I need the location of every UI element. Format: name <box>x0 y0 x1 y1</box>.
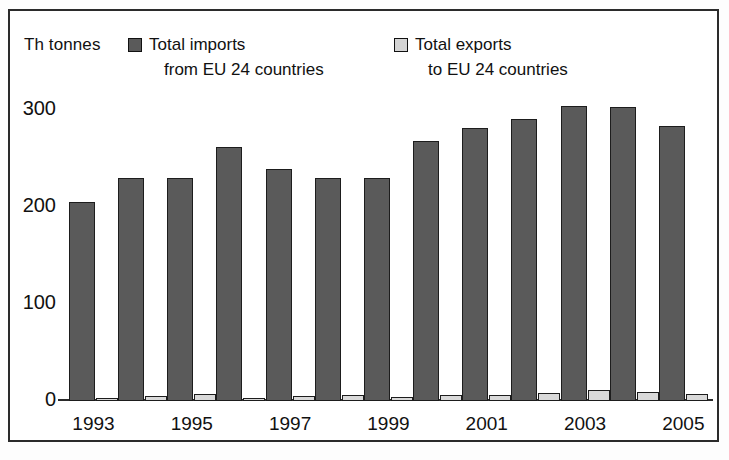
y-axis-tick-200: 200 <box>23 194 56 217</box>
bar-exports <box>489 395 511 401</box>
bar-exports <box>293 396 315 401</box>
bar-exports <box>391 397 413 401</box>
x-axis-tick-1995: 1995 <box>171 413 213 435</box>
bar-imports <box>266 169 292 402</box>
bar-imports <box>69 202 95 401</box>
x-axis-tick-2001: 2001 <box>466 413 508 435</box>
bar-group <box>117 13 166 401</box>
bar-imports <box>315 178 341 401</box>
chart-frame: Th tonnes Total imports from EU 24 count… <box>8 9 719 442</box>
bar-exports <box>637 392 659 401</box>
bar-group <box>166 13 215 401</box>
bar-exports <box>440 395 462 401</box>
bar-group <box>363 13 412 401</box>
x-axis-tick-2003: 2003 <box>564 413 606 435</box>
bar-imports <box>364 178 390 401</box>
bar-group <box>68 13 117 401</box>
bar-group <box>215 13 264 401</box>
bar-group <box>510 13 559 401</box>
y-axis: 0100200300 <box>10 11 64 440</box>
y-axis-tick-300: 300 <box>23 97 56 120</box>
bar-exports <box>538 393 560 401</box>
bar-imports <box>413 141 439 401</box>
bar-group <box>461 13 510 401</box>
bar-group <box>314 13 363 401</box>
bar-group <box>658 13 707 401</box>
bar-exports <box>686 394 708 401</box>
bar-group <box>412 13 461 401</box>
bar-imports <box>561 106 587 401</box>
y-axis-tick-100: 100 <box>23 291 56 314</box>
bar-imports <box>216 147 242 401</box>
bar-imports <box>511 119 537 401</box>
bar-imports <box>118 178 144 401</box>
bar-exports <box>243 398 265 401</box>
y-axis-tick-0: 0 <box>45 388 56 411</box>
bar-exports <box>96 398 118 401</box>
bar-exports <box>194 394 216 401</box>
bar-imports <box>462 128 488 401</box>
x-axis-tick-2005: 2005 <box>662 413 704 435</box>
bar-group <box>609 13 658 401</box>
plot-area: 1993199519971999200120032005 <box>64 11 713 401</box>
x-axis-tick-1999: 1999 <box>367 413 409 435</box>
chart-plot: 0100200300 1993199519971999200120032005 <box>10 11 717 440</box>
bar-imports <box>610 107 636 401</box>
bar-group <box>265 13 314 401</box>
bar-group <box>560 13 609 401</box>
x-axis-tick-1993: 1993 <box>72 413 114 435</box>
bar-imports <box>167 178 193 401</box>
bar-exports <box>145 396 167 401</box>
bar-exports <box>342 395 364 401</box>
chart-page: Th tonnes Total imports from EU 24 count… <box>0 0 729 460</box>
bar-exports <box>588 390 610 401</box>
x-axis-tick-1997: 1997 <box>269 413 311 435</box>
bar-imports <box>659 126 685 401</box>
